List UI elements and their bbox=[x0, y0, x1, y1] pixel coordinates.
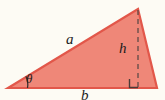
triangle-figure: a h b θ bbox=[0, 0, 165, 100]
base-label-b: b bbox=[81, 88, 89, 100]
side-label-a: a bbox=[66, 32, 74, 47]
height-label-h: h bbox=[119, 41, 127, 56]
angle-label-theta: θ bbox=[26, 72, 32, 85]
triangle-diagram-canvas bbox=[0, 0, 165, 100]
